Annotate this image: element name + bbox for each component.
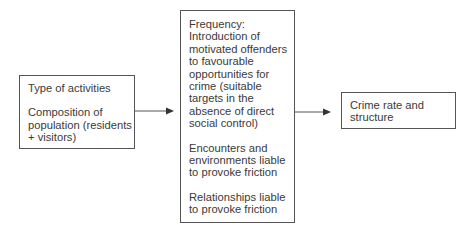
arrow-inputs-to-mechanisms — [134, 108, 174, 115]
arrow-mechanisms-to-outcome — [295, 109, 331, 116]
text-line: crime (suitable — [189, 80, 287, 92]
text-line: to provoke friction — [189, 166, 287, 178]
text-line: absence of direct — [189, 105, 287, 117]
text-line: Frequency: — [189, 18, 287, 30]
text-line: Encounters and — [189, 142, 287, 154]
text-line: environments liable — [189, 154, 287, 166]
outcome-text: Crime rate and structure — [350, 99, 424, 124]
text-line: to provoke friction — [189, 203, 287, 215]
text-line: Introduction of — [189, 30, 287, 42]
text-line: population (residents — [28, 119, 132, 131]
mechanisms-paragraph-2: Encounters and environments liable to pr… — [189, 142, 287, 179]
mechanisms-paragraph-3: Relationships liable to provoke friction — [189, 191, 287, 216]
inputs-paragraph-1: Type of activities — [28, 82, 132, 94]
mechanisms-paragraph-1: Frequency: Introduction of motivated off… — [189, 18, 287, 130]
text-line: to favourable — [189, 55, 287, 67]
text-line: Type of activities — [28, 82, 132, 94]
text-line: social control) — [189, 117, 287, 129]
text-line: + visitors) — [28, 131, 132, 143]
text-line: Crime rate and — [350, 99, 424, 111]
text-line: Relationships liable — [189, 191, 287, 203]
text-line: structure — [350, 111, 424, 123]
mechanisms-text: Frequency: Introduction of motivated off… — [189, 18, 287, 216]
text-line: targets in the — [189, 92, 287, 104]
inputs-paragraph-2: Composition of population (residents + v… — [28, 106, 132, 143]
inputs-text: Type of activities Composition of popula… — [28, 82, 132, 144]
text-line: motivated offenders — [189, 43, 287, 55]
text-line: opportunities for — [189, 68, 287, 80]
text-line: Composition of — [28, 106, 132, 118]
